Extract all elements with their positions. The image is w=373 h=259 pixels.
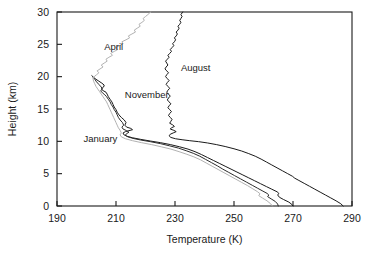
y-tick-label: 0 [43,200,49,212]
x-tick-label: 210 [107,212,125,224]
x-axis-title: Temperature (K) [167,233,243,245]
x-tick-label: 230 [166,212,184,224]
y-tick-label: 10 [37,135,49,147]
y-axis-title: Height (km) [6,82,18,136]
series-label-november: November [125,89,169,100]
y-tick-label: 30 [37,6,49,18]
y-tick-label: 25 [37,38,49,50]
y-tick-label: 5 [43,167,49,179]
x-tick-label: 290 [343,212,361,224]
series-label-january: January [84,133,118,144]
series-label-august: August [181,62,211,73]
series-label-april: April [104,41,123,52]
y-tick-label: 15 [37,103,49,115]
y-tick-label: 20 [37,70,49,82]
x-tick-label: 270 [284,212,302,224]
x-tick-label: 190 [48,212,66,224]
plot-svg: 051015202530 190210230250270290 JanuaryN… [0,0,373,259]
temperature-profile-figure: 051015202530 190210230250270290 JanuaryN… [0,0,373,259]
x-tick-label: 250 [225,212,243,224]
